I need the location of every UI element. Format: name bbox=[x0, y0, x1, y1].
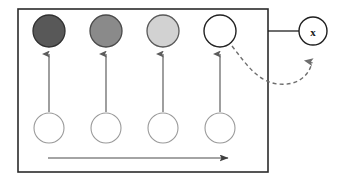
top-node-3[interactable] bbox=[147, 15, 179, 47]
top-node-1[interactable] bbox=[33, 15, 65, 47]
diagram-root: x bbox=[0, 0, 341, 185]
top-node-4[interactable] bbox=[204, 15, 236, 47]
bottom-node-1[interactable] bbox=[34, 113, 64, 143]
bottom-node-2[interactable] bbox=[91, 113, 121, 143]
node-x-group[interactable]: x bbox=[299, 17, 327, 45]
top-node-2[interactable] bbox=[90, 15, 122, 47]
node-x-label: x bbox=[310, 26, 316, 38]
diagram-canvas: x bbox=[0, 0, 341, 185]
bottom-node-3[interactable] bbox=[148, 113, 178, 143]
bottom-node-4[interactable] bbox=[205, 113, 235, 143]
